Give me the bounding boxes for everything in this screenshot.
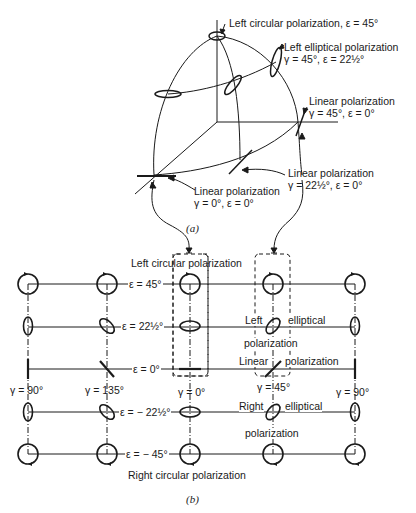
label-linear0-title: Linear polarization [194, 186, 280, 197]
label-left-elliptical-params: γ = 45°, ε = 22½° [284, 54, 364, 65]
annot-polarization-bottom: polarization [245, 428, 299, 439]
label-linear45-title: Linear polarization [309, 96, 395, 107]
col-label-g90-left: γ = 90° [10, 385, 43, 396]
label-bottom-right-circular: Right circular polarization [128, 470, 246, 481]
caption-b: (b) [186, 493, 199, 505]
annot-elliptical-top: elliptical [288, 315, 325, 326]
row-label-em22: ε = − 22½° [119, 407, 171, 418]
annot-right: Right [239, 401, 264, 412]
label-left-elliptical-title: Left elliptical polarization [284, 42, 398, 53]
annot-elliptical-bottom: elliptical [285, 401, 322, 412]
annot-linear: Linear [239, 356, 268, 367]
caption-a: (a) [186, 222, 199, 234]
col-label-g90-right: γ = 90° [336, 387, 369, 398]
label-linear0-params: γ = 0°, ε = 0° [194, 198, 254, 209]
label-top-left-circular: Left circular polarization [131, 258, 242, 269]
annot-polarization-top: polarization [244, 338, 298, 349]
row-label-e0: ε = 0° [132, 364, 161, 375]
col-label-g0: γ = 0° [178, 387, 205, 398]
row-label-em45: ε = − 45° [125, 449, 169, 460]
label-linear45-params: γ = 45°, ε = 0° [309, 108, 375, 119]
col-label-g135: γ = 135° [85, 385, 124, 396]
row-label-e22: ε = 22½° [121, 321, 164, 332]
label-linear22-title: Linear polarization [288, 168, 374, 179]
row-label-e45: ε = 45° [128, 279, 163, 290]
annot-polarization-mid: polarization [285, 356, 339, 367]
col-label-g45: γ = 45° [257, 382, 290, 393]
annot-left: Left [245, 315, 263, 326]
label-left-circular: Left circular polarization, ε = 45° [229, 18, 378, 29]
label-linear22-params: γ = 22½°, ε = 0° [288, 180, 362, 191]
